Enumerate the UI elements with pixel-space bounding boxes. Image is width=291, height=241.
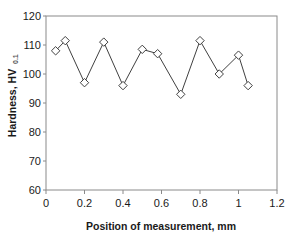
- x-axis-title: Position of measurement, mm: [86, 220, 236, 232]
- hardness-profile-chart: 120 110 100 90 80 70 60: [0, 0, 291, 241]
- y-axis-title: Hardness, HV: [6, 69, 18, 137]
- y-axis-title-subscript: 0.1: [12, 54, 19, 64]
- y-tick-label: 90: [29, 97, 41, 109]
- x-tick-label: 0: [43, 197, 49, 209]
- x-axis-ticks: [46, 190, 277, 194]
- y-axis-tick-labels: 120 110 100 90 80 70 60: [23, 10, 41, 196]
- x-axis-tick-labels: 0 0.2 0.4 0.6 0.8 1 1.2: [43, 197, 285, 209]
- y-tick-label: 100: [23, 68, 41, 80]
- x-tick-label: 0.4: [115, 197, 130, 209]
- y-tick-label: 70: [29, 155, 41, 167]
- x-tick-label: 0.2: [77, 197, 92, 209]
- x-tick-label: 1.2: [269, 197, 284, 209]
- y-tick-label: 60: [29, 184, 41, 196]
- y-tick-label: 120: [23, 10, 41, 22]
- x-tick-label: 0.6: [154, 197, 169, 209]
- plot-frame: [46, 16, 277, 190]
- y-tick-label: 80: [29, 126, 41, 138]
- y-axis-title-group: Hardness, HV 0.1: [6, 54, 19, 137]
- x-tick-label: 1: [235, 197, 241, 209]
- chart-svg: 120 110 100 90 80 70 60: [0, 0, 291, 241]
- x-tick-label: 0.8: [192, 197, 207, 209]
- y-tick-label: 110: [23, 39, 41, 51]
